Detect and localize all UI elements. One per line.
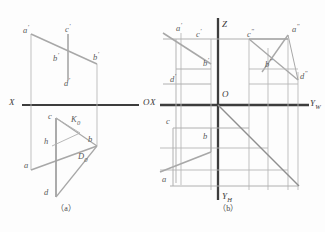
diagram-a-origin-label: O xyxy=(143,98,150,107)
diagram-b-z-axis-label: Z xyxy=(222,20,227,29)
diagram-b-origin-label: O xyxy=(222,90,229,99)
point-label-c-lower-b: c xyxy=(166,117,170,126)
point-label-b-lower-b: b xyxy=(203,132,207,141)
point-label-a-lower-b: a xyxy=(162,175,166,184)
point-label-d-lower-a: d xyxy=(44,188,48,197)
diagram-a-x-axis-label: X xyxy=(9,98,15,107)
point-label-bb-prime-a: b' xyxy=(93,51,99,61)
point-label-c-prime-b: c' xyxy=(196,28,201,38)
point-label-b-prime-upper-a: b' xyxy=(53,52,59,62)
point-label-a-prime-b: a' xyxy=(176,22,182,32)
point-label-a-dprime-b: a" xyxy=(292,23,299,33)
diagram-a-graphics xyxy=(22,34,139,197)
point-label-c-dprime-b: c" xyxy=(247,28,254,38)
point-label-b-lower-a: b xyxy=(88,135,92,144)
diagram-b-graphics xyxy=(160,18,309,200)
point-label-c-lower-a: c xyxy=(48,112,52,121)
point-label-k0-a: K0 xyxy=(71,115,80,126)
point-label-b-dprime-b: b" xyxy=(265,58,272,68)
diagram-b-x-axis-label: X xyxy=(150,98,156,107)
diagram-b-mitre-line xyxy=(218,105,299,186)
point-label-d0-a: D0 xyxy=(78,152,88,163)
point-label-h-lower-a: h xyxy=(44,137,48,146)
caption-a: （a） xyxy=(56,205,76,213)
diagram-a-edge-ab-prime xyxy=(31,34,97,64)
point-label-c-prime-a: c' xyxy=(65,23,70,33)
figure-canvas: X O a' c' b' b' d' c K0 h b D0 a d （a） Z… xyxy=(0,0,325,232)
diagram-b-edge-a-b-lower xyxy=(160,152,211,172)
diagram-b-yw-axis-label: YW xyxy=(310,99,321,110)
point-label-a-lower-a: a xyxy=(24,161,28,170)
caption-b: （b） xyxy=(218,205,239,213)
point-label-d-dprime-b: d" xyxy=(300,70,307,80)
point-label-d-prime-b: d' xyxy=(170,73,176,83)
point-label-a-prime-a: a' xyxy=(23,24,29,34)
point-label-d-prime-a: d' xyxy=(64,77,70,87)
point-label-b-prime-b: b' xyxy=(203,57,209,67)
diagram-b-yh-axis-label: YH xyxy=(222,192,232,203)
